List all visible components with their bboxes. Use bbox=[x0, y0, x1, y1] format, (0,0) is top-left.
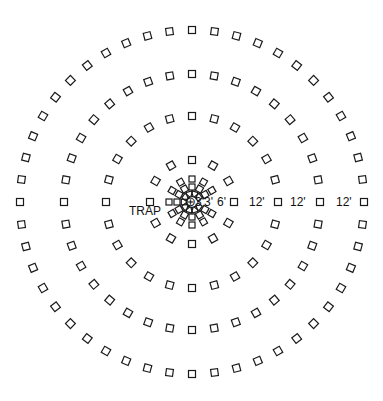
trap-square bbox=[17, 199, 24, 206]
trap-square bbox=[82, 61, 92, 71]
trap-square bbox=[105, 295, 115, 305]
trap-square bbox=[62, 176, 70, 184]
trap-square bbox=[151, 176, 161, 186]
trap-square bbox=[346, 263, 355, 272]
trap-square bbox=[123, 308, 133, 318]
trap-square bbox=[292, 334, 302, 344]
distance-label-2: 3' bbox=[204, 196, 213, 208]
trap-square bbox=[210, 72, 218, 80]
trap-square bbox=[253, 39, 262, 48]
trap-square bbox=[211, 369, 219, 377]
trap-square bbox=[210, 115, 219, 124]
trap-square bbox=[126, 136, 136, 146]
trap-square bbox=[189, 371, 196, 378]
trap-square bbox=[18, 176, 26, 184]
trap-square bbox=[126, 258, 136, 268]
trap-square bbox=[22, 242, 31, 251]
trap-square bbox=[103, 199, 110, 206]
trap-square bbox=[65, 319, 75, 329]
trap-square bbox=[113, 240, 123, 250]
trap-square bbox=[189, 214, 195, 220]
trap-square bbox=[168, 186, 176, 194]
trap-square bbox=[199, 218, 207, 226]
distance-label-3: 6' bbox=[217, 196, 226, 208]
trap-square bbox=[165, 115, 174, 124]
trap-square bbox=[308, 241, 317, 250]
trap-square bbox=[67, 154, 76, 163]
trap-square bbox=[230, 123, 240, 133]
trap-square bbox=[231, 318, 240, 327]
trap-square bbox=[144, 123, 154, 133]
trap-square bbox=[189, 176, 195, 182]
trap-square bbox=[144, 77, 153, 86]
trap-square bbox=[298, 133, 308, 143]
trap-square bbox=[113, 154, 123, 164]
trap-square bbox=[189, 285, 196, 292]
trap-square bbox=[269, 295, 279, 305]
trap-square bbox=[359, 176, 367, 184]
trap-square bbox=[231, 77, 240, 86]
trap-square bbox=[309, 319, 319, 329]
trap-label: TRAP bbox=[129, 205, 161, 217]
trap-square bbox=[166, 234, 176, 244]
trap-square bbox=[105, 99, 115, 109]
trap-square bbox=[210, 281, 219, 290]
trap-square bbox=[231, 199, 238, 206]
trap-square bbox=[51, 92, 61, 102]
trap-square bbox=[308, 154, 317, 163]
trap-square bbox=[262, 154, 272, 164]
trap-square bbox=[354, 242, 363, 251]
trap-square bbox=[271, 175, 280, 184]
trap-square bbox=[166, 324, 174, 332]
trap-square bbox=[324, 92, 334, 102]
trap-square bbox=[166, 161, 176, 171]
trap-square bbox=[336, 283, 346, 293]
trap-square bbox=[210, 324, 218, 332]
trap-square bbox=[143, 364, 152, 373]
trap-square bbox=[18, 221, 26, 229]
trap-square bbox=[253, 356, 262, 365]
trap-square bbox=[174, 199, 180, 205]
trap-square bbox=[224, 176, 234, 186]
distance-label-4: 12' bbox=[249, 196, 265, 208]
trap-square bbox=[211, 28, 219, 36]
trap-square bbox=[189, 222, 195, 228]
trap-square bbox=[144, 272, 154, 282]
trap-square bbox=[123, 86, 133, 96]
trap-square bbox=[122, 39, 131, 48]
trap-square bbox=[232, 32, 241, 41]
trap-square bbox=[38, 111, 48, 121]
trap-square bbox=[354, 153, 363, 162]
trap-grid-diagram: TRAP ⊕ 3' 3' 6' 12' 12' 12' bbox=[0, 0, 383, 401]
distance-label-1: 3' bbox=[195, 196, 204, 208]
trap-square bbox=[273, 48, 283, 58]
trap-square bbox=[51, 302, 61, 312]
trap-square bbox=[168, 209, 176, 217]
trap-square bbox=[346, 132, 355, 141]
trap-square bbox=[29, 132, 38, 141]
distance-label-6: 12' bbox=[336, 196, 352, 208]
trap-square bbox=[269, 99, 279, 109]
trap-square bbox=[189, 184, 195, 190]
trap-square bbox=[309, 75, 319, 85]
trap-square bbox=[285, 115, 295, 125]
trap-square bbox=[82, 334, 92, 344]
trap-square bbox=[189, 327, 196, 334]
trap-square bbox=[22, 153, 31, 162]
trap-square bbox=[208, 161, 218, 171]
trap-square bbox=[298, 261, 308, 271]
trap-square bbox=[208, 186, 216, 194]
trap-square bbox=[166, 199, 172, 205]
trap-square bbox=[248, 258, 258, 268]
trap-square bbox=[166, 72, 174, 80]
trap-square bbox=[189, 241, 196, 248]
trap-square bbox=[232, 364, 241, 373]
trap-square bbox=[101, 346, 111, 356]
trap-square bbox=[208, 209, 216, 217]
trap-square bbox=[251, 86, 261, 96]
trap-square bbox=[271, 220, 280, 229]
trap-square bbox=[62, 220, 70, 228]
trap-square bbox=[251, 308, 261, 318]
trap-square bbox=[65, 75, 75, 85]
trap-square bbox=[61, 199, 68, 206]
